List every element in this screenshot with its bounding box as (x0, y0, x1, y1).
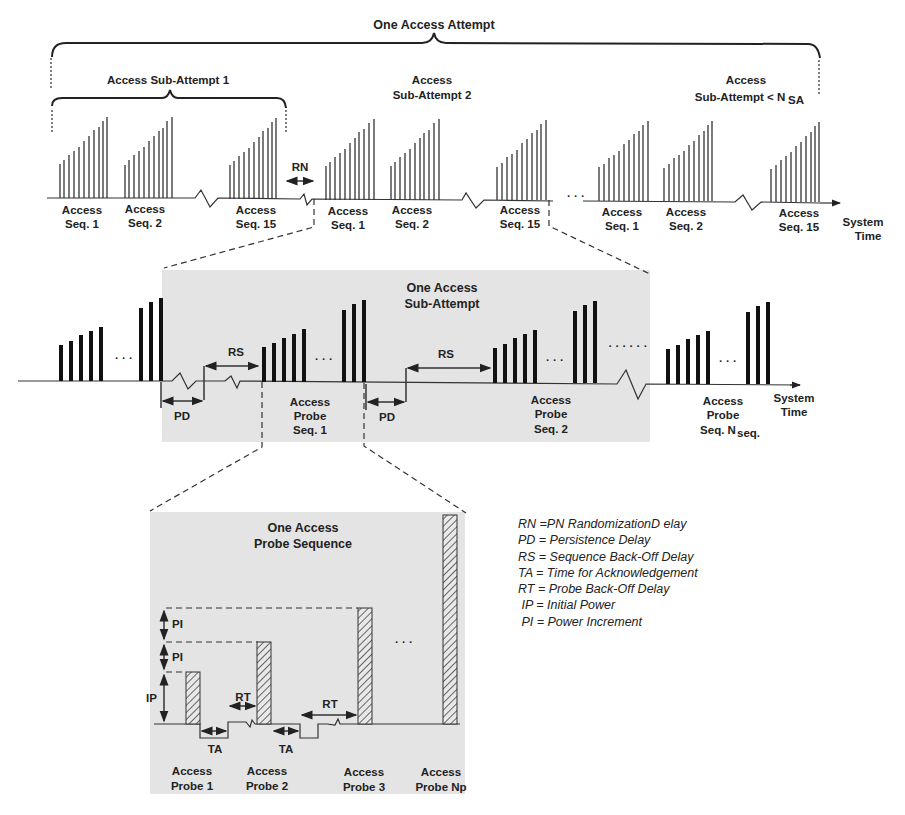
pi-label: PI (172, 618, 183, 630)
seq-label: Access (392, 204, 432, 216)
legend-item: TA = Time for Acknowledgement (518, 565, 698, 581)
probe-seq-label: Seq. 1 (293, 424, 327, 436)
probe-label: Access (344, 766, 384, 778)
sub-attempt-2-label: Access (412, 74, 452, 86)
probe-seq-label: Probe (707, 409, 740, 421)
legend-item: RS = Sequence Back-Off Delay (518, 549, 698, 565)
seq-label: Seq. 1 (605, 220, 639, 232)
legend-item: PD = Persistence Delay (518, 532, 698, 548)
top-ellipsis: · · · (567, 190, 585, 202)
long-ellipsis: · · · · · · (609, 340, 648, 352)
seq-label: Seq. 1 (331, 219, 365, 231)
rs-label: RS (228, 346, 244, 358)
probe-label: Access (421, 766, 461, 778)
system-time-label: System (774, 392, 815, 404)
probe-seq-subscript: seq. (737, 427, 760, 439)
ip-label: IP (146, 692, 157, 704)
rs-label: RS (438, 348, 454, 360)
legend-item: RT = Probe Back-Off Delay (518, 581, 698, 597)
ellipsis: · · · (395, 636, 413, 648)
access-sequence-spikes (60, 117, 819, 202)
seq-label: Seq. 2 (128, 217, 162, 229)
ellipsis: · · · (115, 352, 133, 364)
seq-label: Seq. 2 (669, 220, 703, 232)
rn-label: RN (292, 161, 309, 173)
rt-label: RT (322, 698, 337, 710)
access-probe-3-bar (358, 608, 372, 724)
probe-label: Probe Np (415, 781, 466, 793)
probe-sequence-panel (150, 512, 465, 794)
ellipsis: · · · (546, 354, 564, 366)
one-access-attempt-brace (51, 33, 820, 96)
sub-attempt-n-subscript: SA (788, 94, 804, 106)
seq-label: Access (236, 204, 276, 216)
sub-attempt-n-label: Access (726, 74, 766, 86)
pd-label: PD (379, 411, 395, 423)
system-time-label: System (843, 216, 884, 228)
ellipsis: · · · (719, 355, 737, 367)
access-probe-1-bar (186, 672, 200, 724)
probe-label: Probe 3 (343, 781, 385, 793)
seq-label: Access (500, 204, 540, 216)
probe-label: Access (247, 765, 287, 777)
system-time-label-line2: Time (781, 406, 808, 418)
probe-seq-label: Seq. 2 (534, 423, 568, 435)
top-sequence-labels: Access Seq. 1 Access Seq. 2 Access Seq. … (62, 203, 820, 233)
legend-item: PI = Power Increment (518, 614, 698, 630)
probe-sequence-title: One Access (267, 521, 338, 535)
access-probe-np-bar (443, 515, 457, 724)
access-probe-2-bar (257, 642, 271, 724)
sub-attempt-title: One Access (406, 281, 477, 295)
probe-seq-label: Seq. N (700, 424, 736, 436)
probe-seq-label: Probe (294, 410, 327, 422)
rt-label: RT (235, 691, 250, 703)
sub-attempt-2-label-line2: Sub-Attempt 2 (393, 89, 472, 101)
legend-item: RN =PN RandomizationD elay (518, 516, 698, 532)
sub-attempt-n-label-line2: Sub-Attempt < N (695, 91, 785, 103)
ellipsis: · · · (315, 353, 333, 365)
seq-label: Access (125, 203, 165, 215)
diagram-canvas: One Access Attempt Access Sub-Attempt 1 … (0, 0, 905, 815)
legend-item: IP = Initial Power (518, 597, 698, 613)
probe-seq-label: Probe (535, 408, 568, 420)
seq-label: Seq. 15 (500, 218, 541, 230)
seq-label: Access (62, 204, 102, 216)
sub-attempt-1-brace (52, 90, 286, 132)
sub-attempt-title-line2: Sub-Attempt (405, 297, 481, 311)
seq-label: Access (602, 206, 642, 218)
probe-label: Access (172, 765, 212, 777)
seq-label: Seq. 1 (65, 218, 99, 230)
probe-sequence-title-line2: Probe Sequence (254, 537, 352, 551)
system-time-label-line2: Time (855, 230, 882, 242)
probe-label: Probe 1 (171, 780, 214, 792)
pd-label: PD (174, 410, 190, 422)
probe-seq-label: Access (703, 395, 743, 407)
seq-label: Seq. 2 (395, 218, 429, 230)
probe-label: Probe 2 (246, 780, 288, 792)
seq-label: Access (779, 207, 819, 219)
probe-seq-label: Access (290, 396, 330, 408)
top-time-axis (47, 190, 840, 210)
seq-label: Seq. 15 (236, 218, 277, 230)
ta-label: TA (279, 743, 293, 755)
seq-label: Seq. 15 (779, 221, 820, 233)
access-attempt-title: One Access Attempt (373, 18, 495, 32)
abbreviation-legend: RN =PN RandomizationD elay PD = Persiste… (518, 516, 698, 630)
seq-label: Access (666, 206, 706, 218)
probe-seq-label: Access (531, 394, 571, 406)
pi-label: PI (172, 651, 183, 663)
seq-label: Access (328, 205, 368, 217)
ta-label: TA (208, 743, 222, 755)
diagram-svg: One Access Attempt Access Sub-Attempt 1 … (0, 0, 905, 815)
sub-attempt-1-label: Access Sub-Attempt 1 (107, 74, 230, 86)
